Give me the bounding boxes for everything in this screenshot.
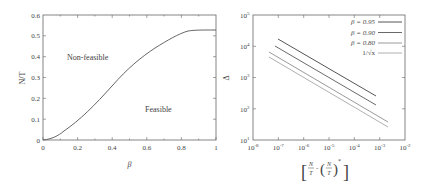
- legend-label-090: β = 0.90: [350, 29, 375, 37]
- nonfeasible-label: Non-feasible: [67, 53, 109, 62]
- left-xtick-1: 0.2: [73, 144, 82, 152]
- left-paren: (: [320, 161, 325, 178]
- right-x-axis-label: [ N T - ( N T ) * ]: [301, 158, 349, 182]
- left-xtick-4: 0.8: [177, 144, 186, 152]
- left-y-ticks: [43, 36, 216, 119]
- right-xtick-3: 10-5: [323, 143, 335, 152]
- left-ytick-0: 0: [37, 137, 41, 145]
- svg-text:N: N: [326, 161, 332, 167]
- left-ytick-5: 0.5: [31, 32, 40, 40]
- right-ytick-4: 105: [240, 11, 250, 20]
- right-xtick-4: 10-4: [349, 143, 361, 152]
- feasible-label: Feasible: [145, 105, 172, 114]
- series-beta-080: [269, 52, 388, 122]
- legend-label-inv-sqrt: 1/√x: [362, 49, 375, 57]
- left-xtick-2: 0.4: [108, 144, 117, 152]
- left-chart: 0 0.2 0.4 0.6 0.8 1 0 0.1 0.2 0.3 0.4 0.…: [18, 12, 218, 170]
- figure: 0 0.2 0.4 0.6 0.8 1 0 0.1 0.2 0.3 0.4 0.…: [0, 0, 436, 189]
- right-y-axis-label: Δ: [222, 75, 231, 80]
- legend: β = 0.95 β = 0.90 β = 0.80 1/√x: [350, 18, 402, 57]
- left-ytick-1: 0.1: [31, 116, 40, 124]
- left-x-axis-label: β: [127, 160, 132, 169]
- series-beta-090: [275, 46, 376, 105]
- svg-text:T: T: [309, 170, 313, 176]
- right-ytick-3: 104: [240, 42, 250, 51]
- legend-label-095: β = 0.95: [350, 18, 375, 26]
- left-plot-frame: [43, 15, 216, 140]
- left-xtick-0: 0: [41, 144, 45, 152]
- svg-text:T: T: [327, 170, 331, 176]
- series-beta-095: [278, 39, 376, 96]
- left-xtick-5: 1: [214, 144, 218, 152]
- right-xtick-1: 10-7: [273, 143, 285, 152]
- minus-sign: -: [316, 164, 319, 172]
- right-bracket: ]: [343, 162, 349, 182]
- left-ytick-4: 0.4: [31, 53, 40, 61]
- right-chart: 10-8 10-7 10-6 10-5 10-4 10-3 10-2 101 1…: [222, 11, 411, 182]
- svg-text:*: *: [338, 158, 341, 164]
- series-inv-sqrt: [269, 57, 388, 127]
- left-bracket: [: [301, 162, 307, 182]
- legend-label-080: β = 0.80: [350, 39, 375, 47]
- left-ytick-2: 0.2: [31, 95, 40, 103]
- left-x-ticks: [43, 15, 216, 140]
- left-ytick-3: 0.3: [31, 74, 40, 82]
- left-ytick-6: 0.6: [31, 12, 40, 20]
- feasibility-boundary-curve: [43, 30, 216, 140]
- svg-text:N: N: [308, 161, 314, 167]
- left-xtick-3: 0.6: [142, 144, 151, 152]
- right-xtick-6: 10-2: [399, 143, 411, 152]
- right-ytick-2: 103: [240, 73, 250, 82]
- right-xtick-0: 10-8: [247, 143, 259, 152]
- right-xtick-2: 10-6: [298, 143, 310, 152]
- right-xtick-5: 10-3: [374, 143, 386, 152]
- left-y-axis-label: N/T: [18, 71, 27, 84]
- right-ytick-1: 102: [240, 105, 250, 114]
